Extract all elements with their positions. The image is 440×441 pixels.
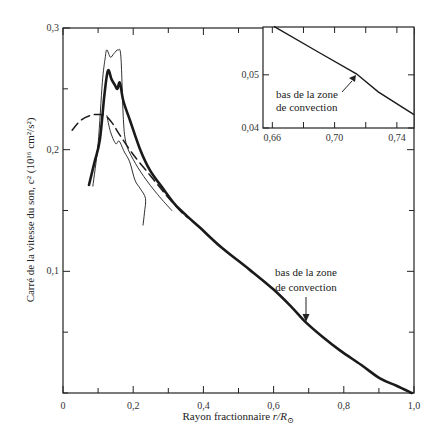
x-tick-label: 0,8	[338, 400, 351, 411]
annotation-line-1: bas de la zone	[275, 266, 337, 278]
sound-speed-chart: 00,20,40,60,81,00,10,20,3 bas de la zone…	[0, 0, 440, 441]
inset-chart: 0,660,700,740,040,05 bas de la zone de c…	[242, 26, 415, 143]
x-tick-label: 1,0	[408, 400, 421, 411]
inset-x-tick-label: 0,70	[326, 132, 344, 143]
x-tick-label: 0	[61, 400, 66, 411]
inset-y-tick-label: 0,04	[242, 122, 260, 133]
main-annotation: bas de la zone de convection	[275, 266, 337, 322]
y-axis-title: Carré de la vitesse du son, c² (10¹⁶ cm²…	[24, 117, 37, 302]
inset-annotation-line-1: bas de la zone	[276, 88, 338, 100]
annotation-line-2: de convection	[275, 281, 337, 293]
inset-x-tick-label: 0,66	[264, 132, 282, 143]
series-dashed	[72, 114, 188, 217]
inset-y-tick-label: 0,05	[242, 69, 260, 80]
inset-x-tick-label: 0,74	[388, 132, 406, 143]
y-tick-label: 0,3	[47, 22, 60, 33]
y-tick-label: 0,2	[47, 144, 60, 155]
inset-annotation-line-2: de convection	[276, 101, 338, 113]
x-tick-label: 0,2	[127, 400, 140, 411]
x-axis-title: Rayon fractionnaire r/R⊙	[182, 410, 293, 425]
y-tick-label: 0,1	[47, 265, 60, 276]
